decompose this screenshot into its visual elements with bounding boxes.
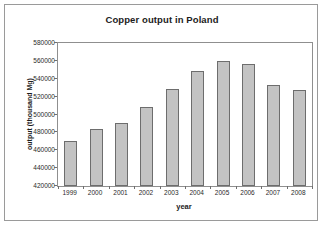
x-axis-title: year [57,202,311,211]
chart-frame: Copper output in Poland output (thousand… [4,4,318,221]
x-axis-tick-label: 2008 [278,189,318,196]
x-axis-tick-labels: 1999200020012002200320042005200620072008 [5,5,319,227]
